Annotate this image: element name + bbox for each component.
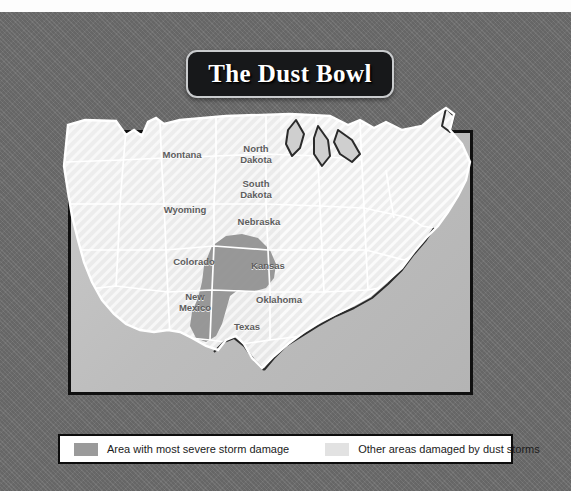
legend-swatch-severe-damage xyxy=(74,443,98,456)
legend-label-other-damage: Other areas damaged by dust storms xyxy=(358,443,540,455)
page-title: The Dust Bowl xyxy=(208,60,372,88)
legend-item-severe-damage: Area with most severe storm damage xyxy=(74,443,289,456)
us-landmass xyxy=(30,100,530,430)
map-svg xyxy=(30,100,530,430)
title-plaque: The Dust Bowl xyxy=(186,50,394,98)
legend-swatch-other-damage xyxy=(325,443,349,456)
top-white-strip xyxy=(0,0,571,12)
legend-label-severe-damage: Area with most severe storm damage xyxy=(107,443,289,455)
legend-item-other-damage: Other areas damaged by dust storms xyxy=(325,443,540,456)
map-legend: Area with most severe storm damage Other… xyxy=(58,434,513,464)
map-stage: Montana North Dakota South Dakota Wyomin… xyxy=(30,100,530,430)
dust-bowl-map-page: The Dust Bowl xyxy=(0,0,571,491)
